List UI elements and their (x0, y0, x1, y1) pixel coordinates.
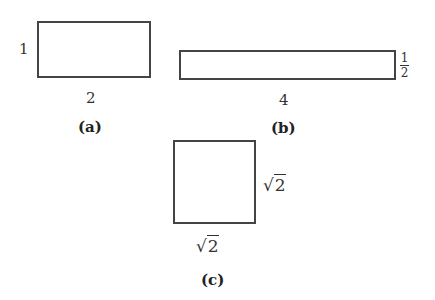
width-label-a: 2 (86, 91, 96, 106)
fraction-numerator: 1 (401, 52, 409, 64)
radical-sign-icon: √ (196, 236, 207, 256)
caption-b: (b) (271, 121, 296, 136)
fraction-denominator: 2 (401, 67, 409, 79)
rectangle-b (179, 50, 396, 80)
caption-a: (a) (78, 120, 102, 135)
radicand: 2 (207, 235, 219, 256)
height-label-a: 1 (19, 42, 29, 57)
radicand: 2 (274, 174, 286, 195)
height-label-c: √2 (263, 177, 286, 194)
rectangle-a (37, 21, 151, 78)
height-label-b: 1 2 (400, 52, 409, 79)
width-label-c: √2 (196, 238, 219, 255)
square-c (173, 140, 256, 224)
caption-c: (c) (201, 273, 224, 288)
width-label-b: 4 (279, 93, 289, 108)
radical-sign-icon: √ (263, 175, 274, 195)
